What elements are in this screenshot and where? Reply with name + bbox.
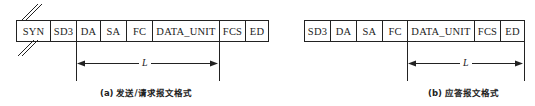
length-label-b: L (460, 57, 472, 69)
caption-b: (b) 应答报文格式 (428, 86, 499, 98)
